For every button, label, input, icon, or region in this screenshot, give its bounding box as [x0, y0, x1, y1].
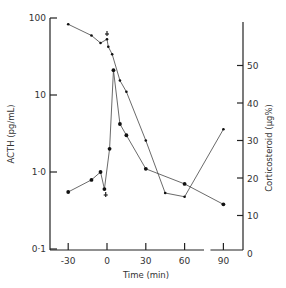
- y-tick-label-right: 30: [247, 136, 259, 146]
- y-tick-label-right: 20: [247, 174, 259, 184]
- x-tick-label: 0: [104, 256, 110, 266]
- data-point-corticosteroid: [183, 195, 186, 198]
- data-point-acth: [66, 190, 70, 194]
- data-point-corticosteroid: [125, 90, 128, 93]
- y-tick-label-right: 40: [247, 99, 259, 109]
- y-axis-title-left: ACTH (pg/mL): [6, 104, 16, 163]
- data-point-corticosteroid: [145, 139, 148, 142]
- data-point-acth: [103, 187, 107, 191]
- data-point-corticosteroid: [67, 23, 70, 26]
- data-point-acth: [183, 182, 187, 186]
- data-point-corticosteroid: [119, 79, 122, 82]
- x-axis-title: Time (min): [122, 270, 169, 280]
- data-point-corticosteroid: [106, 38, 109, 41]
- labels: 0·11·010100-30030609001020304050ACTH (pg…: [6, 13, 274, 280]
- data-point-corticosteroid: [164, 192, 167, 195]
- y-axis-title-right: Corticosteroid (µg%): [264, 104, 274, 192]
- data-point-acth: [108, 147, 112, 151]
- data-point-corticosteroid: [107, 45, 110, 48]
- y-tick-label-left: 100: [29, 13, 46, 23]
- data-point-corticosteroid: [90, 34, 93, 37]
- data-point-acth: [90, 178, 94, 182]
- y-tick-label-left: 0·1: [32, 244, 46, 254]
- series-group: [66, 23, 225, 206]
- series-line-corticosteroid: [68, 24, 223, 197]
- x-tick-label: 90: [218, 256, 230, 266]
- data-point-corticosteroid: [222, 128, 225, 131]
- y-tick-label-right: 0: [247, 249, 253, 259]
- data-point-acth: [112, 68, 116, 72]
- x-tick-label: -30: [61, 256, 76, 266]
- data-point-corticosteroid: [99, 42, 102, 45]
- y-tick-label-left: 10: [35, 90, 47, 100]
- y-tick-label-left: 1·0: [32, 167, 47, 177]
- data-point-corticosteroid: [111, 53, 114, 56]
- x-tick-label: 60: [179, 256, 191, 266]
- axes: [50, 18, 243, 250]
- data-point-acth: [118, 122, 122, 126]
- data-point-acth: [125, 133, 129, 137]
- data-point-acth: [222, 202, 226, 206]
- data-point-acth: [99, 170, 103, 174]
- series-line-acth: [68, 70, 223, 204]
- x-tick-label: 30: [140, 256, 152, 266]
- y-tick-label-right: 50: [247, 61, 259, 71]
- chart: 0·11·010100-30030609001020304050ACTH (pg…: [0, 0, 286, 288]
- y-tick-label-right: 10: [247, 211, 259, 221]
- data-point-acth: [144, 167, 148, 171]
